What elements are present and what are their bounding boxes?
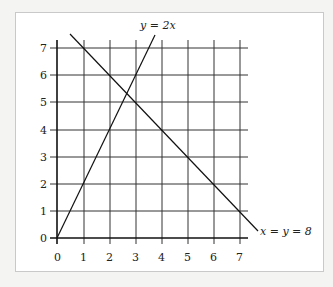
- x-tick-labels: 0 1 2 3 4 5 6 7: [54, 251, 243, 264]
- y-tick-4: 4: [40, 124, 47, 137]
- y-tick-labels: 0 1 2 3 4 5 6 7: [40, 42, 47, 245]
- x-tick-6: 6: [210, 251, 217, 264]
- y-tick-3: 3: [40, 151, 47, 164]
- x-tick-4: 4: [158, 251, 165, 264]
- x-tick-2: 2: [106, 251, 113, 264]
- y-tick-1: 1: [40, 205, 47, 218]
- x-tick-3: 3: [132, 251, 139, 264]
- y-tick-6: 6: [40, 69, 47, 82]
- y-tick-5: 5: [40, 96, 47, 109]
- x-tick-7: 7: [236, 251, 243, 264]
- line-y-equals-2x: [57, 35, 155, 238]
- y-tick-0: 0: [40, 232, 47, 245]
- label-y-2x: y = 2x: [139, 19, 176, 32]
- line-x-plus-y-equals-8: [70, 34, 258, 231]
- x-tick-5: 5: [184, 251, 191, 264]
- graph: y = 2x x = y = 8 0 1 2 3 4 5 6 7 0 1 2 3…: [0, 0, 333, 287]
- label-x-y-8: x = y = 8: [260, 225, 312, 238]
- horizontal-gridlines: [50, 48, 248, 211]
- x-tick-0: 0: [54, 251, 61, 264]
- x-tick-1: 1: [80, 251, 87, 264]
- y-tick-7: 7: [40, 42, 47, 55]
- vertical-gridlines: [84, 40, 240, 244]
- y-tick-2: 2: [40, 178, 47, 191]
